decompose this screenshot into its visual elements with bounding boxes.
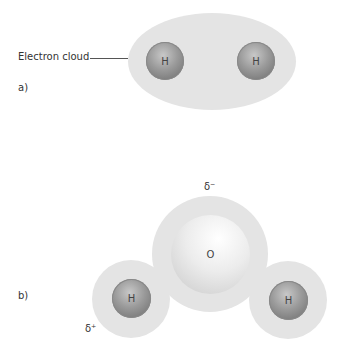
atom-symbol: H: [161, 56, 169, 67]
diagram-a-label: a): [18, 82, 28, 93]
atom-symbol: H: [252, 56, 260, 67]
oxygen-atom: O: [171, 215, 250, 294]
hydrogen-atom-right: H: [237, 42, 275, 80]
partial-positive-charge: δ⁺: [85, 323, 96, 334]
electron-cloud-pointer-line: [90, 58, 128, 59]
diagram-b-label: b): [18, 290, 28, 301]
atom-symbol: H: [285, 295, 293, 306]
hydrogen-atom-left: H: [112, 279, 151, 318]
hydrogen-atom-right: H: [269, 281, 308, 320]
atom-symbol: H: [128, 293, 136, 304]
partial-negative-charge: δ⁻: [204, 181, 215, 192]
hydrogen-atom-left: H: [146, 42, 184, 80]
atom-symbol: O: [207, 249, 215, 260]
electron-cloud-label: Electron cloud: [18, 51, 89, 62]
